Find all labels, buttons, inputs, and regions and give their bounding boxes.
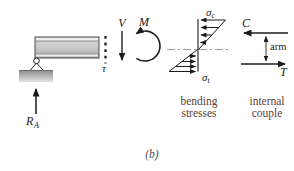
tension-stress-label: σt xyxy=(202,71,210,85)
shear-force-label: V xyxy=(118,16,127,30)
figure-part-label: (b) xyxy=(145,148,159,161)
beam-bottom-highlight xyxy=(36,55,98,57)
bending-moment-label: M xyxy=(138,15,150,29)
figure-canvas: RA τ V M σc σt bending xyxy=(0,0,294,171)
stress-resultants: V M xyxy=(118,15,160,61)
couple-caption-line1: internal xyxy=(249,95,284,107)
beam-assembly: RA τ xyxy=(19,36,107,130)
tension-force-label: T xyxy=(280,65,288,79)
tension-envelope-line xyxy=(169,50,198,72)
bending-caption-line2: stresses xyxy=(181,107,217,119)
ground-block xyxy=(19,71,53,83)
reaction-label: RA xyxy=(25,114,40,130)
beam-bending-figure: RA τ V M σc σt bending xyxy=(0,0,294,171)
shear-stress-label: τ xyxy=(102,62,107,74)
pin-circle xyxy=(34,58,40,64)
pin-support xyxy=(30,58,44,71)
pin-triangle xyxy=(30,63,44,71)
bending-stress-diagram: σc σt bending stresses xyxy=(167,6,230,119)
beam-bottom-groove xyxy=(36,54,98,55)
beam-top-highlight xyxy=(36,38,98,40)
bending-moment-arc xyxy=(136,31,160,61)
beam-top-groove xyxy=(36,41,98,42)
couple-caption-line2: couple xyxy=(252,107,283,120)
arm-label: arm xyxy=(270,41,286,52)
internal-couple-diagram: C arm T internal couple xyxy=(241,16,288,120)
tension-stress-arrows xyxy=(169,56,196,72)
compression-stress-label: σc xyxy=(206,6,215,20)
compression-force-label: C xyxy=(242,16,251,30)
